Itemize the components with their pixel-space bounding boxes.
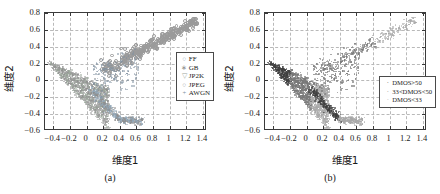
scatter-point bbox=[312, 102, 314, 104]
scatter-point bbox=[300, 72, 302, 74]
legend-b: ·DMOS>50·33<DMOS<50·DMOS<33 bbox=[379, 76, 436, 108]
scatter-point bbox=[352, 81, 354, 83]
scatter-point bbox=[109, 118, 111, 120]
scatter-point bbox=[85, 77, 87, 79]
scatter-point bbox=[323, 85, 325, 87]
scatter-point bbox=[348, 74, 350, 76]
scatter-point bbox=[60, 68, 62, 70]
scatter-point bbox=[343, 121, 345, 123]
y-axis-title-b: 维度2 bbox=[221, 49, 236, 109]
scatter-point bbox=[329, 81, 331, 83]
scatter-point bbox=[100, 96, 102, 98]
scatter-point bbox=[392, 26, 394, 28]
scatter-point bbox=[108, 97, 110, 99]
scatter-point bbox=[405, 24, 407, 26]
scatter-point bbox=[88, 106, 90, 108]
scatter-point bbox=[93, 65, 95, 67]
scatter-point bbox=[95, 90, 97, 92]
scatter-point bbox=[115, 76, 117, 78]
scatter-point bbox=[318, 113, 320, 115]
scatter-point bbox=[141, 123, 143, 125]
legend-item-b: ·DMOS<33 bbox=[383, 96, 432, 105]
scatter-point bbox=[106, 126, 108, 128]
scatter-point bbox=[328, 120, 330, 122]
scatter-point bbox=[370, 38, 372, 40]
scatter-point bbox=[355, 121, 357, 123]
scatter-point bbox=[116, 114, 118, 116]
scatter-point bbox=[316, 67, 318, 69]
y-tick-label: −0.4 bbox=[228, 109, 260, 118]
scatter-point bbox=[358, 72, 360, 74]
scatter-point bbox=[99, 62, 101, 64]
scatter-point bbox=[403, 19, 405, 21]
scatter-point bbox=[328, 104, 330, 106]
scatter-point bbox=[104, 90, 106, 92]
scatter-point bbox=[68, 70, 70, 72]
scatter-point bbox=[125, 74, 127, 76]
scatter-point bbox=[134, 59, 136, 61]
scatter-point bbox=[109, 90, 111, 92]
scatter-point bbox=[357, 53, 359, 55]
scatter-point bbox=[346, 124, 348, 126]
scatter-point bbox=[78, 85, 80, 87]
scatter-point bbox=[291, 69, 293, 71]
legend-item-b: ·33<DMOS<50 bbox=[383, 88, 432, 97]
scatter-point bbox=[353, 85, 355, 87]
legend-marker-icon: + bbox=[180, 89, 189, 98]
scatter-point bbox=[375, 47, 377, 49]
scatter-point bbox=[294, 91, 296, 93]
legend-label: FF bbox=[189, 55, 197, 64]
scatter-point bbox=[366, 44, 368, 46]
scatter-point bbox=[115, 62, 117, 64]
scatter-point bbox=[152, 42, 156, 46]
scatter-point bbox=[113, 116, 115, 118]
scatter-point bbox=[142, 118, 144, 120]
scatter-point bbox=[61, 70, 63, 72]
scatter-point bbox=[354, 59, 356, 61]
scatter-point bbox=[278, 72, 280, 74]
scatter-point bbox=[317, 103, 319, 105]
scatter-point bbox=[358, 63, 360, 65]
scatter-point bbox=[305, 77, 307, 79]
scatter-point bbox=[361, 124, 363, 126]
scatter-point bbox=[346, 57, 348, 59]
legend-label: DMOS>50 bbox=[392, 79, 421, 88]
legend-item-b: ·DMOS>50 bbox=[383, 79, 432, 88]
scatter-point bbox=[106, 118, 108, 120]
scatter-point bbox=[131, 64, 133, 66]
scatter-point bbox=[58, 72, 60, 74]
x-tick-label: −0.4 bbox=[265, 134, 280, 143]
scatter-point bbox=[119, 111, 121, 113]
x-tick-label: 1 bbox=[166, 134, 170, 143]
scatter-point bbox=[104, 65, 106, 67]
scatter-point bbox=[313, 65, 315, 67]
scatter-point bbox=[96, 97, 98, 99]
legend-marker-icon: ∗ bbox=[180, 64, 189, 73]
scatter-point bbox=[122, 53, 124, 55]
scatter-point bbox=[312, 97, 314, 99]
scatter-point bbox=[346, 48, 348, 50]
scatter-point bbox=[96, 84, 98, 86]
scatter-point bbox=[334, 107, 336, 109]
legend-item-a: ▽JP2K bbox=[180, 72, 210, 81]
scatter-point bbox=[358, 48, 360, 50]
scatter-point bbox=[103, 77, 105, 79]
scatter-point bbox=[86, 98, 88, 100]
scatter-point bbox=[326, 126, 328, 128]
scatter-point bbox=[296, 90, 298, 92]
scatter-point bbox=[320, 80, 322, 82]
scatter-points-b bbox=[265, 13, 425, 129]
scatter-point bbox=[71, 87, 73, 89]
scatter-point bbox=[121, 76, 123, 78]
panel-a: −0.4−0.200.20.40.60.811.21.4 −0.6−0.4−0.… bbox=[0, 0, 220, 194]
scatter-point bbox=[318, 107, 320, 109]
scatter-point bbox=[369, 46, 371, 48]
scatter-point bbox=[335, 62, 337, 64]
scatter-point bbox=[393, 38, 395, 40]
x-tick-label: 1.4 bbox=[197, 134, 208, 143]
scatter-point bbox=[328, 71, 330, 73]
scatter-point bbox=[323, 69, 325, 71]
scatter-point bbox=[317, 74, 319, 76]
scatter-point bbox=[138, 72, 140, 74]
scatter-point bbox=[297, 74, 299, 76]
